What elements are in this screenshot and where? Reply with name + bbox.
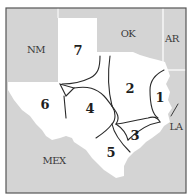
- region-label-3: 3: [130, 129, 139, 142]
- state-label-nm: NM: [27, 45, 45, 55]
- region-label-4: 4: [85, 102, 94, 115]
- state-label-la: LA: [170, 122, 183, 132]
- region-label-7: 7: [73, 44, 82, 57]
- state-label-ar: AR: [165, 34, 179, 44]
- region-label-5: 5: [106, 146, 115, 159]
- state-label-mex: MEX: [42, 156, 65, 166]
- region-label-1: 1: [155, 91, 164, 104]
- state-label-ok: OK: [121, 29, 136, 39]
- region-label-2: 2: [125, 82, 134, 95]
- region-label-6: 6: [40, 98, 49, 111]
